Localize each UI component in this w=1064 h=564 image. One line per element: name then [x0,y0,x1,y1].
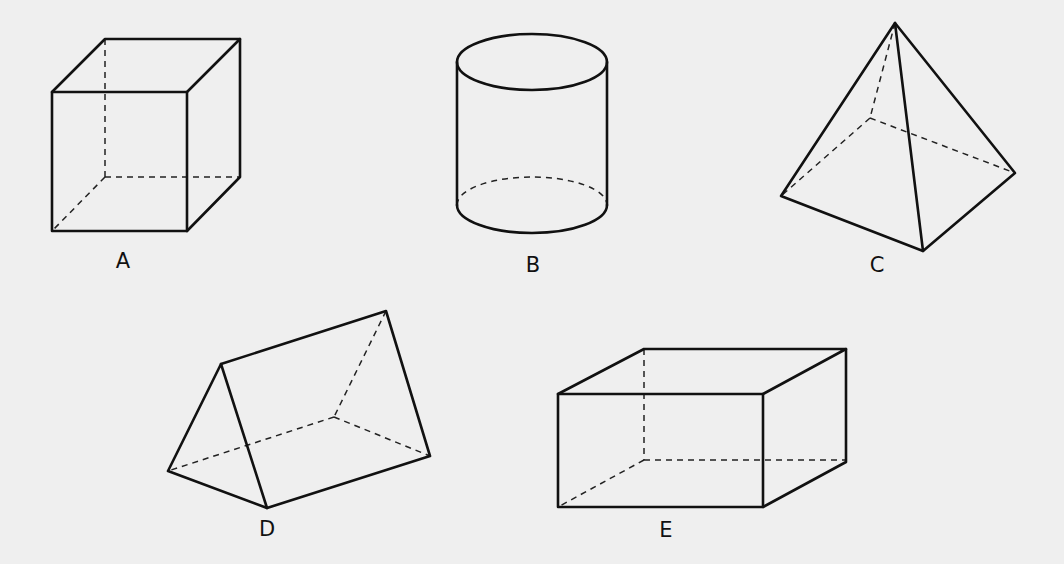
label-b: B [526,253,540,277]
shape-e-rectangular-prism: E [558,349,846,542]
label-d: D [259,517,275,541]
label-c: C [870,253,885,277]
shape-a-cube: A [52,39,240,273]
label-e: E [659,518,672,542]
solids-figure: A B C D E [0,0,1064,564]
shape-d-triangular-prism: D [168,311,430,541]
shape-c-pyramid: C [781,23,1015,277]
label-a: A [116,249,131,273]
shape-b-cylinder: B [457,34,607,277]
